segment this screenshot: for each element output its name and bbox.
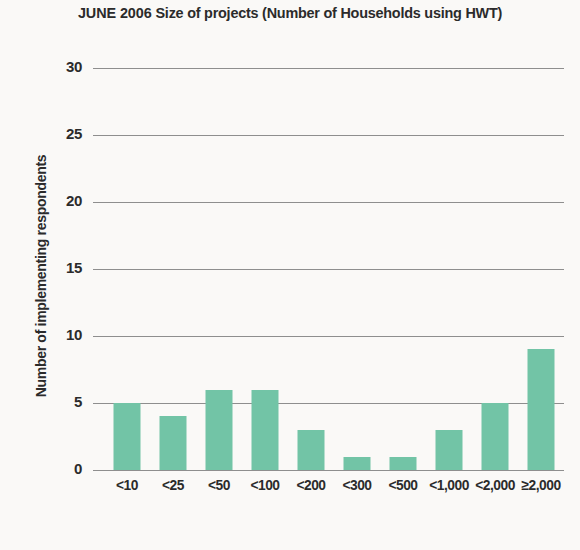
bar	[298, 430, 325, 470]
plot-area: 051015202530	[104, 68, 564, 470]
bar	[344, 457, 371, 470]
y-tick-mark-25	[93, 135, 104, 136]
x-tick-label: ≥2,000	[519, 477, 563, 493]
y-tick-mark-20	[93, 202, 104, 203]
y-tick-label-20: 20	[22, 192, 82, 209]
bar-series	[104, 68, 564, 470]
x-tick-label: <200	[289, 477, 333, 493]
bar-slot	[334, 68, 380, 470]
y-tick-mark-15	[93, 269, 104, 270]
bar-slot	[150, 68, 196, 470]
bar-slot	[472, 68, 518, 470]
y-axis-title: Number of implementing respondents	[33, 126, 49, 426]
bar-slot	[104, 68, 150, 470]
y-tick-label-0: 0	[22, 460, 82, 477]
chart-title-date: JUNE 2006	[78, 4, 152, 21]
y-tick-label-25: 25	[22, 125, 82, 142]
chart-title: JUNE 2006 Size of projects (Number of Ho…	[20, 3, 559, 23]
bar	[252, 390, 279, 470]
bar	[482, 403, 509, 470]
x-tick-label: <300	[335, 477, 379, 493]
y-tick-label-30: 30	[22, 58, 82, 75]
chart-figure: JUNE 2006 Size of projects (Number of Ho…	[0, 0, 580, 550]
y-tick-label-10: 10	[22, 326, 82, 343]
bar-slot	[242, 68, 288, 470]
x-tick-label: <2,000	[473, 477, 517, 493]
bar	[390, 457, 417, 470]
y-tick-mark-30	[93, 68, 104, 69]
y-tick-label-5: 5	[22, 393, 82, 410]
bar-slot	[196, 68, 242, 470]
bar-slot	[380, 68, 426, 470]
y-tick-mark-10	[93, 336, 104, 337]
bar-slot	[426, 68, 472, 470]
x-tick-label: <50	[197, 477, 241, 493]
x-tick-label: <25	[151, 477, 195, 493]
x-axis-ticks: <10<25<50<100<200<300<500<1,000<2,000≥2,…	[104, 477, 564, 501]
bar-slot	[288, 68, 334, 470]
x-tick-label: <500	[381, 477, 425, 493]
bar	[114, 403, 141, 470]
y-tick-mark-5	[93, 403, 104, 404]
bar	[206, 390, 233, 470]
y-tick-mark-0	[93, 470, 104, 471]
chart-title-subject: Size of projects (Number of Households u…	[155, 4, 502, 21]
bar	[160, 416, 187, 470]
x-tick-label: <100	[243, 477, 287, 493]
x-tick-label: <10	[105, 477, 149, 493]
y-tick-label-15: 15	[22, 259, 82, 276]
x-tick-label: <1,000	[427, 477, 471, 493]
bar	[528, 349, 555, 470]
bar	[436, 430, 463, 470]
bar-slot	[518, 68, 564, 470]
